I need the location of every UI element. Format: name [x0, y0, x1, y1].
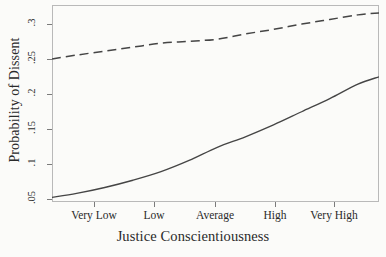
y-tick-label: .05 [26, 183, 37, 213]
x-tick-mark [154, 202, 155, 207]
y-tick-label: .1 [26, 148, 37, 178]
dashed-line-series [52, 13, 379, 59]
chart-figure: Probability of Dissent .3.25.2.15.1.05 V… [0, 0, 386, 257]
y-axis-title: Probability of Dissent [7, 10, 23, 190]
y-tick-label: .15 [26, 113, 37, 143]
x-tick-mark [334, 202, 335, 207]
x-tick-mark [275, 202, 276, 207]
x-tick-mark [215, 202, 216, 207]
plot-area [52, 5, 379, 202]
y-tick-label: .3 [26, 8, 37, 38]
y-tick-label: .2 [26, 78, 37, 108]
x-tick-mark [94, 202, 95, 207]
x-tick-label: Very High [289, 209, 379, 221]
solid-line-series [52, 77, 379, 198]
y-tick-label: .25 [26, 43, 37, 73]
x-axis-title: Justice Conscientiousness [0, 228, 386, 245]
